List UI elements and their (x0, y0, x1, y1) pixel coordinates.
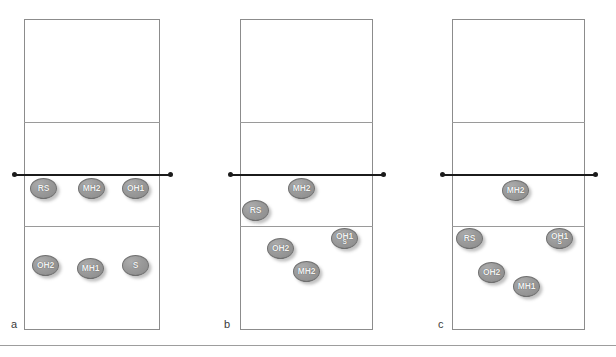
net-post-right-panel-c (593, 172, 598, 177)
bottom-divider-rule (0, 345, 616, 346)
player-label: OH1 (127, 184, 144, 193)
player-label: RS (250, 206, 261, 215)
player-marker-mh1-panel-a: MH1 (77, 258, 104, 279)
net-post-left-panel-b (228, 172, 233, 177)
player-marker-oh1-panel-a: OH1 (122, 178, 149, 199)
player-marker-oh2-panel-b: OH2 (267, 238, 294, 259)
player-label: OH2 (272, 244, 289, 253)
player-marker-oh2-panel-c: OH2 (478, 262, 505, 283)
net-post-right-panel-b (381, 172, 386, 177)
panel-caption-b: b (224, 318, 230, 330)
player-marker-mh2-panel-a: MH2 (78, 178, 105, 199)
volleyball-rotation-figure: RSMH2OH1OH2MH1SaMH2RSOH1SOH2MH2bMH2RSOH1… (0, 0, 616, 357)
player-label: MH2 (83, 184, 100, 193)
attack-line-far-panel-a (24, 122, 160, 123)
player-marker-s-panel-a: S (122, 255, 149, 276)
player-label: MH1 (518, 282, 535, 291)
attack-line-near-panel-b (240, 226, 373, 227)
attack-line-far-panel-b (240, 122, 373, 123)
player-marker-oh2-panel-a: OH2 (32, 255, 59, 276)
net-post-left-panel-a (12, 172, 17, 177)
player-marker-oh1-s-panel-b: OH1S (331, 228, 358, 249)
net-line-panel-c (442, 174, 595, 176)
player-marker-mh2-panel-b: MH2 (293, 261, 320, 282)
player-label: OH2 (37, 261, 54, 270)
net-line-panel-a (14, 174, 170, 176)
player-label: RS (464, 234, 475, 243)
player-label-secondary: S (557, 239, 561, 246)
player-label: MH2 (298, 267, 315, 276)
net-post-left-panel-c (440, 172, 445, 177)
player-label: MH2 (507, 186, 524, 195)
player-marker-rs-panel-a: RS (30, 178, 57, 199)
panel-caption-a: a (11, 318, 17, 330)
player-marker-mh2-panel-c: MH2 (502, 180, 529, 201)
player-marker-mh2-panel-b: MH2 (288, 178, 315, 199)
player-marker-rs-panel-b: RS (242, 200, 269, 221)
panel-caption-c: c (438, 318, 444, 330)
net-post-right-panel-a (168, 172, 173, 177)
player-label: S (133, 261, 138, 270)
attack-line-far-panel-c (452, 122, 585, 123)
player-marker-mh1-panel-c: MH1 (513, 276, 540, 297)
player-marker-oh1-s-panel-c: OH1S (546, 228, 573, 249)
player-label: MH1 (82, 264, 99, 273)
attack-line-near-panel-c (452, 226, 585, 227)
player-marker-rs-panel-c: RS (456, 228, 483, 249)
attack-line-near-panel-a (24, 226, 160, 227)
player-label: MH2 (293, 184, 310, 193)
player-label: RS (38, 184, 49, 193)
player-label: OH2 (483, 268, 500, 277)
player-label-secondary: S (342, 239, 346, 246)
net-line-panel-b (230, 174, 383, 176)
